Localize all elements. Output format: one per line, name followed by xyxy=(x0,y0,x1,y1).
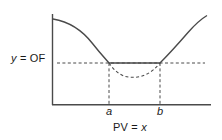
x-axis-label-variable: x xyxy=(141,121,147,133)
function-plot-figure: y = OF PV = x a b xyxy=(0,0,222,140)
x-tick-label-a: a xyxy=(106,105,112,117)
y-axis-label-text: = OF xyxy=(17,52,46,64)
objective-function-left-branch xyxy=(53,19,109,63)
plot-canvas xyxy=(0,0,222,140)
x-axis-label-text: PV = xyxy=(113,121,141,133)
objective-function-right-branch xyxy=(160,16,207,64)
y-axis-label: y = OF xyxy=(11,52,46,64)
x-axis-label: PV = x xyxy=(113,121,147,133)
original-function-dashed-curve xyxy=(109,63,160,77)
x-tick-label-b: b xyxy=(157,105,163,117)
